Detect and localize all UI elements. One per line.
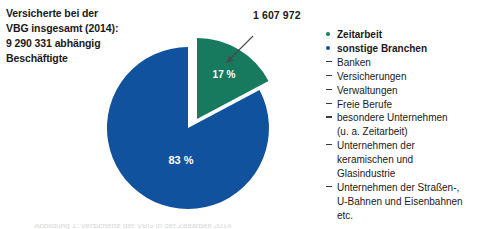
dash-icon [326, 98, 337, 104]
legend-item-sonstige-branchen[interactable]: sonstige Branchen [326, 42, 474, 55]
dash-icon [326, 56, 337, 62]
legend-item-freie-berufe: Freie Berufe [326, 98, 474, 111]
pie-label-sonstige-branchen: 83 % [168, 154, 193, 166]
bottom-caption-text: Abbildung 1: Versicherte der VBG in der … [34, 224, 231, 229]
legend-label-zeitarbeit: Zeitarbeit [337, 28, 474, 41]
legend-item-banken: Banken [326, 56, 474, 69]
legend-label-freie-berufe: Freie Berufe [337, 98, 474, 111]
legend-item-keramik-glas-cont2: Glasindustrie [326, 167, 474, 180]
callout-value: 1 607 972 [253, 9, 301, 21]
legend-item-zeitarbeit[interactable]: Zeitarbeit [326, 28, 474, 41]
legend-item-keramik-glas: Unternehmen der [326, 139, 474, 152]
dash-icon [326, 84, 337, 90]
dash-icon [326, 181, 337, 187]
legend-label-etc: etc. [337, 209, 474, 222]
legend-item-strassen-bahnen-cont: U-Bahnen und Eisenbahnen [326, 195, 474, 208]
legend-label-sonstige-branchen: sonstige Branchen [337, 42, 474, 55]
dash-icon [326, 70, 337, 76]
dash-icon [326, 111, 337, 117]
legend-label-besondere-unternehmen: besondere Unternehmen [337, 111, 474, 124]
legend-label-strassen-bahnen-cont: U-Bahnen und Eisenbahnen [337, 195, 474, 208]
legend-item-versicherungen: Versicherungen [326, 70, 474, 83]
legend-item-strassen-bahnen: Unternehmen der Straßen-, [326, 181, 474, 194]
legend-bullet-sonstige-branchen-icon [326, 42, 337, 50]
legend-label-versicherungen: Versicherungen [337, 70, 474, 83]
pie-chart-figure: Versicherte bei der VBG insgesamt (2014)… [0, 0, 477, 229]
legend-item-etc: etc. [326, 209, 474, 222]
legend-bullet-zeitarbeit-icon [326, 28, 337, 36]
chart-legend: Zeitarbeit sonstige Branchen Banken Vers… [326, 28, 474, 223]
legend-label-banken: Banken [337, 56, 474, 69]
bottom-caption-strip: Abbildung 1: Versicherte der VBG in der … [0, 224, 477, 229]
pie-label-zeitarbeit: 17 % [213, 69, 236, 80]
legend-item-keramik-glas-cont1: keramischen und [326, 153, 474, 166]
legend-item-verwaltungen: Verwaltungen [326, 84, 474, 97]
dash-icon [326, 139, 337, 145]
legend-label-keramik-glas-cont2: Glasindustrie [337, 167, 474, 180]
legend-label-besondere-unternehmen-cont: (u. a. Zeitarbeit) [337, 125, 474, 138]
legend-label-verwaltungen: Verwaltungen [337, 84, 474, 97]
legend-label-keramik-glas: Unternehmen der [337, 139, 474, 152]
legend-label-strassen-bahnen: Unternehmen der Straßen-, [337, 181, 474, 194]
legend-item-besondere-unternehmen: besondere Unternehmen [326, 111, 474, 124]
pie-chart: 17 % 83 % [95, 14, 300, 219]
legend-label-keramik-glas-cont1: keramischen und [337, 153, 474, 166]
legend-item-besondere-unternehmen-cont: (u. a. Zeitarbeit) [326, 125, 474, 138]
